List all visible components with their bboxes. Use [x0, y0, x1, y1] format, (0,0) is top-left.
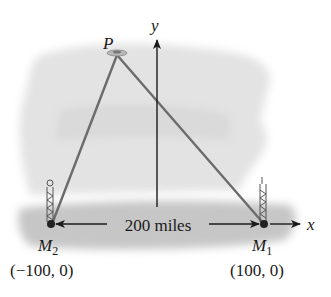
sky-shading [20, 44, 270, 195]
diagram-svg: P y x 200 miles M2 (−100, 0) M1 (100, 0) [0, 0, 331, 297]
x-axis-label: x [306, 215, 315, 234]
station-m2-coords: (−100, 0) [10, 261, 73, 280]
station-m2-dot [47, 220, 55, 228]
distance-label: 200 miles [125, 216, 192, 235]
hyperbola-navigation-diagram: P y x 200 miles M2 (−100, 0) M1 (100, 0) [0, 0, 331, 297]
y-axis-label: y [149, 16, 159, 35]
point-p-label: P [102, 34, 113, 53]
station-m1-dot [260, 220, 268, 228]
station-m1-coords: (100, 0) [230, 261, 284, 280]
